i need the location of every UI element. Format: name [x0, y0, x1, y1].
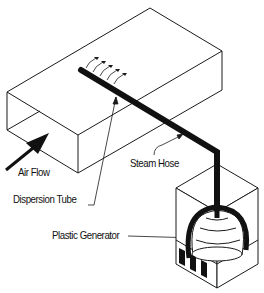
label-steam-hose: Steam Hose: [130, 157, 179, 169]
label-dispersion-tube: Dispersion Tube: [13, 193, 76, 205]
humidifier-diagram: [0, 0, 264, 293]
label-air-flow: Air Flow: [18, 166, 49, 178]
plastic-generator: [192, 211, 244, 262]
label-plastic-generator: Plastic Generator: [52, 229, 119, 241]
